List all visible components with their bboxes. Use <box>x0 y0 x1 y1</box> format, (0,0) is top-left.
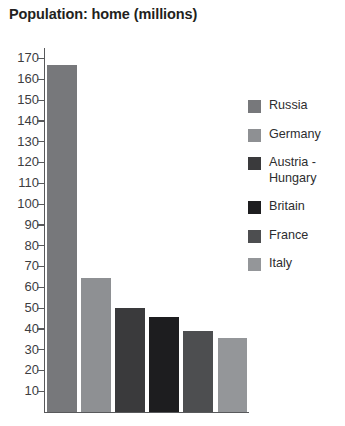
x-axis-line <box>44 412 249 413</box>
y-tick-mark <box>37 58 44 59</box>
bar <box>183 331 213 412</box>
chart-legend: RussiaGermanyAustria - HungaryBritainFra… <box>248 98 345 285</box>
y-tick-mark <box>37 266 44 267</box>
y-tick-label: 120 <box>17 153 39 171</box>
y-tick-mark <box>37 183 44 184</box>
y-tick-mark <box>37 349 44 350</box>
bar <box>149 317 179 412</box>
plot-area: 1701601501401301201101009080706050403020… <box>44 48 249 413</box>
legend-swatch-icon <box>248 157 261 170</box>
bar <box>81 278 111 412</box>
legend-swatch-icon <box>248 230 261 243</box>
y-tick-mark <box>37 100 44 101</box>
legend-item[interactable]: Italy <box>248 256 345 272</box>
legend-item[interactable]: Germany <box>248 127 345 143</box>
legend-swatch-icon <box>248 201 261 214</box>
y-tick-mark <box>37 79 44 80</box>
y-tick-mark <box>37 328 44 329</box>
legend-swatch-icon <box>248 129 261 142</box>
legend-item[interactable]: Britain <box>248 199 345 215</box>
y-tick-mark <box>37 308 44 309</box>
legend-item-label: Austria - Hungary <box>269 155 317 186</box>
y-axis-line <box>44 48 45 413</box>
y-tick-mark <box>37 204 44 205</box>
y-tick-label: 170 <box>17 49 39 67</box>
y-tick-label: 160 <box>17 70 39 88</box>
legend-item-label: Russia <box>269 98 308 114</box>
bar-chart: Population: home (millions) 170160150140… <box>0 0 345 426</box>
legend-item-label: France <box>269 228 308 244</box>
bar <box>47 65 77 412</box>
bar <box>218 338 248 412</box>
y-tick-mark <box>37 370 44 371</box>
legend-swatch-icon <box>248 258 261 271</box>
y-tick-mark <box>37 162 44 163</box>
legend-item[interactable]: France <box>248 228 345 244</box>
y-tick-mark <box>37 141 44 142</box>
legend-item-label: Britain <box>269 199 305 215</box>
chart-title: Population: home (millions) <box>9 6 197 22</box>
y-tick-label: 100 <box>17 195 39 213</box>
legend-item-label: Italy <box>269 256 292 272</box>
y-tick-mark <box>37 120 44 121</box>
y-tick-mark <box>37 245 44 246</box>
y-tick-mark <box>37 287 44 288</box>
legend-item[interactable]: Russia <box>248 98 345 114</box>
y-tick-label: 140 <box>17 112 39 130</box>
legend-item[interactable]: Austria - Hungary <box>248 155 345 186</box>
y-tick-label: 150 <box>17 91 39 109</box>
legend-swatch-icon <box>248 100 261 113</box>
legend-item-label: Germany <box>269 127 321 143</box>
y-tick-mark <box>37 224 44 225</box>
y-tick-label: 130 <box>17 133 39 151</box>
bar <box>115 308 145 412</box>
y-tick-label: 110 <box>18 174 39 192</box>
y-tick-mark <box>37 391 44 392</box>
